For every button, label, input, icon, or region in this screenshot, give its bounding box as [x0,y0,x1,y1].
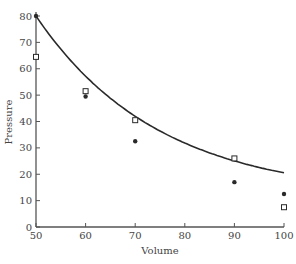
y-tick-label: 60 [19,63,32,74]
y-axis-title: Pressure [3,100,14,145]
observed-point-square [133,118,138,123]
y-tick-label: 10 [19,195,32,206]
curve-line [36,16,284,173]
y-tick-label: 50 [19,90,32,101]
y-tick-label: 20 [19,169,32,180]
curve-point [34,14,38,18]
data-points [34,14,287,210]
y-tick-label: 80 [19,11,32,22]
curve-point [282,192,286,196]
curve-point [83,94,87,98]
x-tick-label: 60 [79,230,92,241]
observed-point-square [34,54,39,59]
fitted-curve [36,16,284,173]
axes: 506070809010001020304050607080 [19,11,293,242]
x-tick-label: 90 [228,230,241,241]
observed-point-square [83,89,88,94]
observed-point-square [232,156,237,161]
x-axis-title: Volume [140,245,178,256]
x-tick-label: 100 [274,230,293,241]
curve-point [232,180,236,184]
observed-point-square [282,205,287,210]
y-tick-label: 70 [19,37,32,48]
y-tick-label: 0 [26,222,32,233]
y-tick-label: 40 [19,116,32,127]
pressure-volume-chart: 506070809010001020304050607080 Volume Pr… [0,0,296,264]
x-tick-label: 70 [129,230,142,241]
y-tick-label: 30 [19,142,32,153]
curve-point [133,139,137,143]
x-tick-label: 80 [178,230,191,241]
